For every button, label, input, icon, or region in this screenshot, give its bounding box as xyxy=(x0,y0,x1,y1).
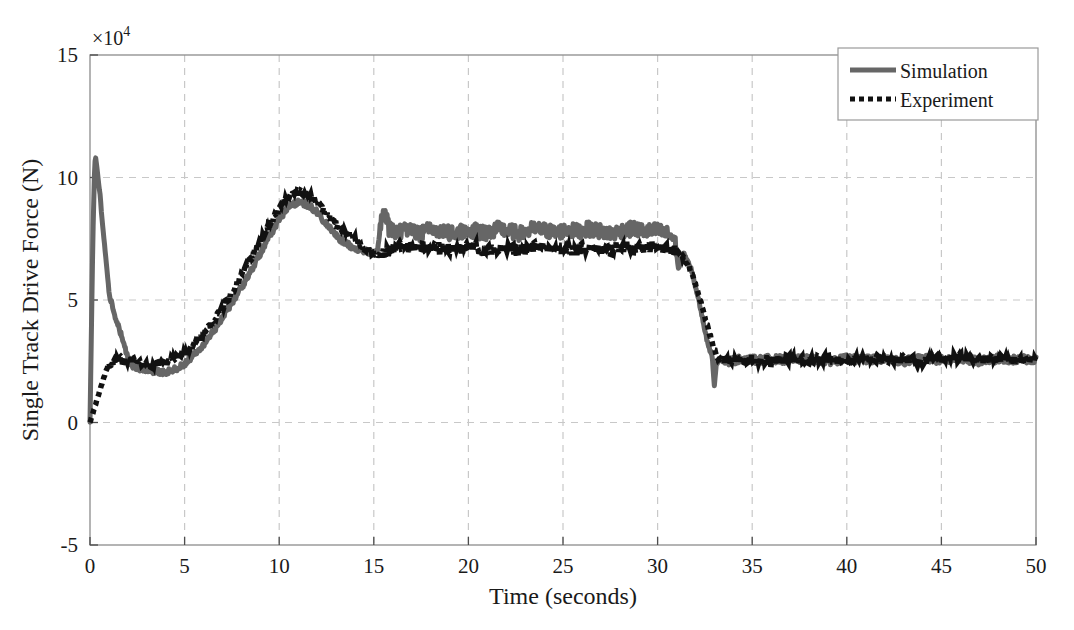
xtick-label-20: 20 xyxy=(458,554,479,578)
xtick-label-25: 25 xyxy=(553,554,574,578)
ytick-label-15: 15 xyxy=(57,43,78,67)
chart-figure: 05101520253035404550-5051015 SimulationE… xyxy=(0,0,1074,630)
tick-labels: 05101520253035404550-5051015 xyxy=(57,43,1047,578)
legend-label-simulation: Simulation xyxy=(900,60,988,82)
plot-canvas: 05101520253035404550-5051015 SimulationE… xyxy=(0,0,1074,630)
ytick-label-5: 5 xyxy=(68,288,79,312)
y-axis-multiplier: ×104 xyxy=(92,24,130,49)
xtick-label-35: 35 xyxy=(742,554,763,578)
xtick-label-0: 0 xyxy=(85,554,96,578)
xtick-label-30: 30 xyxy=(647,554,668,578)
ytick-label-0: 0 xyxy=(68,411,79,435)
y-axis-title: Single Track Drive Force (N) xyxy=(17,159,43,442)
ytick-label--5: -5 xyxy=(61,533,79,557)
xtick-label-45: 45 xyxy=(931,554,952,578)
legend: SimulationExperiment xyxy=(838,48,1038,120)
xtick-label-40: 40 xyxy=(836,554,857,578)
xtick-label-15: 15 xyxy=(363,554,384,578)
x-axis-title: Time (seconds) xyxy=(489,583,637,609)
xtick-label-5: 5 xyxy=(179,554,190,578)
legend-label-experiment: Experiment xyxy=(900,89,994,112)
xtick-label-10: 10 xyxy=(269,554,290,578)
ytick-label-10: 10 xyxy=(57,166,78,190)
xtick-label-50: 50 xyxy=(1026,554,1047,578)
